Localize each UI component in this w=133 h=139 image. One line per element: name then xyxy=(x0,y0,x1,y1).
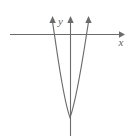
coordinate-plane-svg: y x xyxy=(0,0,133,139)
x-axis-group xyxy=(10,31,125,38)
y-axis-up-arrow-icon xyxy=(67,16,73,23)
y-axis-label: y xyxy=(57,15,63,27)
graph-figure: y x xyxy=(0,0,133,139)
parabola-left-arm-up-arrow-icon xyxy=(49,16,55,23)
parabola-right-arm-up-arrow-icon xyxy=(85,16,91,23)
x-axis-label: x xyxy=(118,36,124,48)
